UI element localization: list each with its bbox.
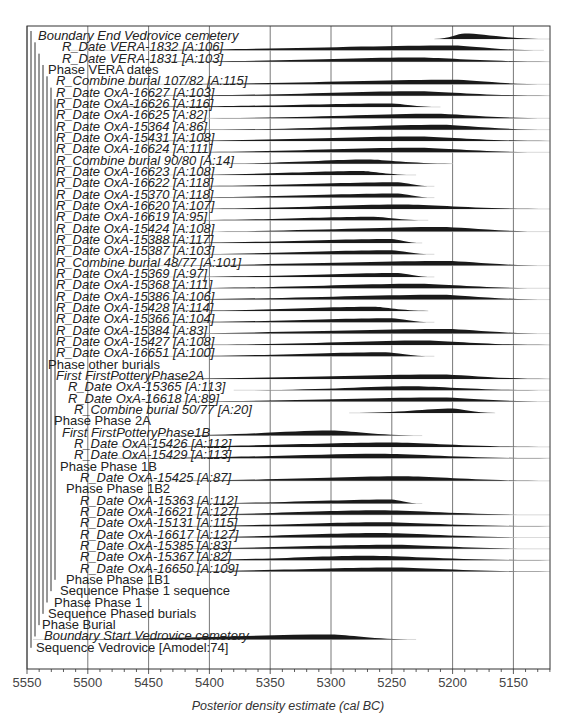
tick-label: 5200 xyxy=(438,675,467,690)
posterior-distribution xyxy=(434,34,550,39)
row-label: Sequence Vedrovice [Amodel:74] xyxy=(36,640,228,655)
tick-label: 5350 xyxy=(256,675,285,690)
posterior-distribution xyxy=(161,284,550,289)
tick-label: 5400 xyxy=(195,675,224,690)
row-labels: Boundary End Vedrovice cemeteryR_Date VE… xyxy=(36,28,252,655)
posterior-distribution xyxy=(173,340,550,345)
posterior-distribution xyxy=(161,204,550,209)
model-structure-brackets xyxy=(31,31,55,648)
x-axis-label: Posterior density estimate (cal BC) xyxy=(192,699,384,713)
posterior-distribution xyxy=(234,386,550,390)
oxcal-multiplot-chart: Boundary End Vedrovice cemeteryR_Date VE… xyxy=(0,0,572,720)
posterior-distribution xyxy=(185,125,550,130)
tick-label: 5250 xyxy=(377,675,406,690)
tick-label: 5450 xyxy=(134,675,163,690)
tick-label: 5500 xyxy=(73,675,102,690)
x-axis: 555055005450540053505300525052005150 xyxy=(13,669,550,690)
tick-label: 5300 xyxy=(317,675,346,690)
posterior-distribution xyxy=(173,227,550,232)
tick-label: 5150 xyxy=(499,675,528,690)
posterior-distribution xyxy=(185,114,550,119)
posterior-distribution xyxy=(349,408,495,413)
tick-label: 5550 xyxy=(13,675,42,690)
